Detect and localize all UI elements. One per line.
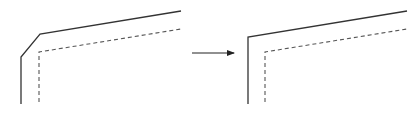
inner-dashed-outline	[265, 29, 407, 102]
inner-dashed-outline	[39, 29, 181, 102]
figure-after	[248, 11, 407, 104]
outer-solid-outline-chamfered	[21, 11, 181, 104]
diagram-canvas	[0, 0, 418, 117]
outer-solid-outline-sharp	[248, 11, 407, 104]
figure-before	[21, 11, 181, 104]
